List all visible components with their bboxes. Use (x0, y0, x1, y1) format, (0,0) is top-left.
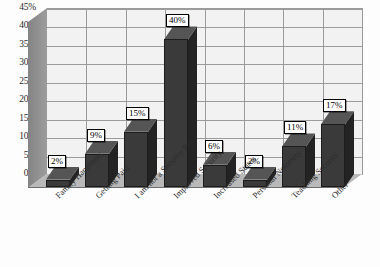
bar-side-face (345, 111, 354, 187)
bar-chart: 0%5%10%15%20%25%30%35%40%45% 2%9%15%40%6… (0, 0, 380, 267)
bar-data-label: 15% (126, 107, 149, 120)
bar-data-label: 17% (323, 99, 346, 112)
bar-data-label: 40% (166, 14, 189, 27)
bar-data-label: 9% (87, 129, 105, 142)
bar-side-face (188, 26, 197, 187)
bar-column[interactable] (124, 132, 148, 187)
x-axis-category-labels: Family HappinessGetting PaidI am not a S… (0, 188, 380, 267)
bar-data-label: 2% (48, 155, 66, 168)
bar-data-label: 11% (284, 121, 306, 134)
bar-front-face (124, 132, 148, 187)
